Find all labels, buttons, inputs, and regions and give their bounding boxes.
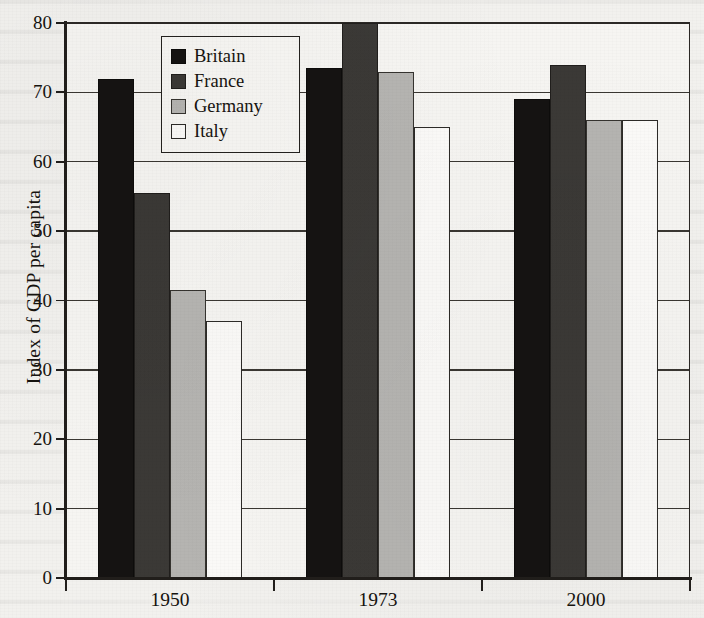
y-tick-40 — [56, 300, 66, 302]
y-tick-label-60: 60 — [0, 151, 52, 173]
bar-britain-2000 — [514, 99, 550, 578]
bar-france-1950 — [134, 193, 170, 578]
legend-label-germany: Germany — [194, 97, 263, 116]
legend-item-france: France — [171, 69, 290, 94]
legend-swatch-britain-icon — [171, 49, 186, 64]
x-tick-label-2000: 2000 — [526, 589, 646, 611]
bar-germany-2000 — [586, 120, 622, 578]
y-tick-80 — [56, 22, 66, 24]
x-tick-end-3 — [689, 578, 691, 591]
chart-legend: BritainFranceGermanyItaly — [161, 36, 300, 153]
y-tick-label-50: 50 — [0, 220, 52, 242]
bar-britain-1973 — [306, 68, 342, 578]
x-tick-label-1950: 1950 — [110, 589, 230, 611]
legend-label-france: France — [194, 72, 244, 91]
x-tick-divider-2 — [481, 578, 483, 591]
x-axis-line — [64, 577, 692, 580]
legend-label-italy: Italy — [194, 122, 228, 141]
legend-item-germany: Germany — [171, 94, 290, 119]
legend-swatch-germany-icon — [171, 99, 186, 114]
y-tick-label-0: 0 — [0, 567, 52, 589]
bar-italy-2000 — [622, 120, 658, 578]
bar-britain-1950 — [98, 79, 134, 579]
bars-group — [66, 23, 690, 578]
y-tick-label-70: 70 — [0, 81, 52, 103]
legend-label-britain: Britain — [194, 47, 245, 66]
bar-germany-1973 — [378, 72, 414, 578]
y-tick-label-80: 80 — [0, 12, 52, 34]
x-tick-label-1973: 1973 — [318, 589, 438, 611]
bar-italy-1950 — [206, 321, 242, 578]
y-tick-20 — [56, 438, 66, 440]
legend-swatch-france-icon — [171, 74, 186, 89]
x-tick-end-0 — [65, 578, 67, 591]
bar-chart-figure: Index of GDP per capita 8070605040302010… — [0, 0, 704, 618]
y-tick-70 — [56, 91, 66, 93]
bar-germany-1950 — [170, 290, 206, 578]
y-tick-50 — [56, 230, 66, 232]
y-tick-label-10: 10 — [0, 498, 52, 520]
bar-italy-1973 — [414, 127, 450, 578]
legend-item-britain: Britain — [171, 44, 290, 69]
legend-item-italy: Italy — [171, 119, 290, 144]
legend-swatch-italy-icon — [171, 124, 186, 139]
y-tick-30 — [56, 369, 66, 371]
y-tick-label-40: 40 — [0, 290, 52, 312]
bar-france-2000 — [550, 65, 586, 578]
y-tick-10 — [56, 508, 66, 510]
bar-france-1973 — [342, 23, 378, 578]
y-tick-label-30: 30 — [0, 359, 52, 381]
y-tick-label-20: 20 — [0, 428, 52, 450]
y-tick-60 — [56, 161, 66, 163]
x-tick-divider-1 — [273, 578, 275, 591]
